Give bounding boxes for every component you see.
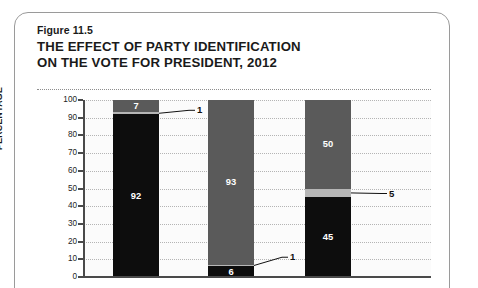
plot-region: 9276934550 115 [83,100,431,277]
y-axis-title: PERCENTAGE [0,87,4,150]
y-axis-tick-labels: 1009080706050403020100 [55,100,77,277]
y-axis-line [83,100,85,278]
y-axis-tick [78,134,83,136]
y-axis-tick-label: 50 [57,185,77,193]
chart-area: 9276934550 115 1009080706050403020100 PE… [0,0,478,288]
y-axis-tick-label: 0 [57,273,77,281]
y-axis-tick [78,205,83,207]
y-axis-tick [78,258,83,260]
callout-value-3: 5 [389,189,394,199]
y-axis-tick [78,117,83,119]
y-axis-tick [78,223,83,225]
x-axis-line [83,276,431,278]
y-axis-tick [78,152,83,154]
y-axis-tick-label: 100 [57,96,77,104]
y-axis-tick [78,241,83,243]
y-axis-tick [78,170,83,172]
callout-leader-line-3 [83,100,431,277]
y-axis-tick-label: 60 [57,167,77,175]
y-axis-tick-label: 20 [57,238,77,246]
y-axis-tick-label: 30 [57,220,77,228]
y-axis-tick-label: 40 [57,202,77,210]
y-axis-tick-label: 80 [57,131,77,139]
y-axis-tick [78,276,83,278]
y-axis-tick-label: 70 [57,149,77,157]
y-axis-tick-label: 10 [57,255,77,263]
y-axis-tick [78,188,83,190]
y-axis-tick-label: 90 [57,114,77,122]
y-axis-tick [78,99,83,101]
